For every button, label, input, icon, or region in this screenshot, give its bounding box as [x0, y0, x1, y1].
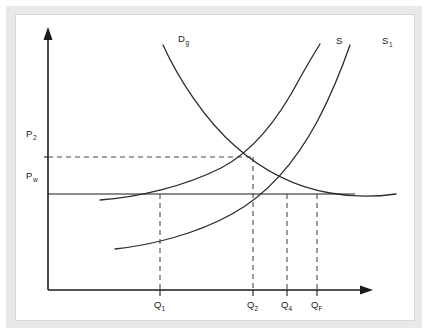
- supply-curve-s1: [115, 45, 350, 249]
- supply1-curve-label-base: S: [382, 35, 388, 46]
- q1-label-base: Q: [154, 299, 161, 310]
- price-axis-labels: P 2 P w: [26, 128, 38, 183]
- figure-root: P 2 P w Q 1 Q 2 Q 4 Q F D g S S 1: [0, 0, 428, 335]
- p2-label-sub: 2: [33, 134, 37, 141]
- q2-label-base: Q: [247, 299, 254, 310]
- axes-group: [44, 27, 374, 295]
- supply-curve-label-base: S: [336, 35, 342, 46]
- quantity-axis-arrowhead: [360, 286, 373, 295]
- qf-label-sub: F: [319, 305, 323, 312]
- q4-label-sub: 4: [289, 305, 293, 312]
- quantity-axis-labels: Q 1 Q 2 Q 4 Q F: [154, 299, 323, 312]
- demand-curve-label-sub: g: [186, 39, 190, 47]
- q2-label-sub: 2: [255, 305, 259, 312]
- q4-label-base: Q: [281, 299, 288, 310]
- x-axis-ticks-group: [160, 290, 317, 296]
- q1-label-sub: 1: [162, 305, 166, 312]
- pw-label-sub: w: [32, 176, 38, 183]
- supply1-curve-label-sub: 1: [389, 41, 393, 48]
- supply-curve-s: [100, 44, 320, 200]
- demand-curve-dg: [163, 45, 396, 196]
- demand-curve-label-base: D: [178, 33, 185, 44]
- qf-label-base: Q: [311, 299, 318, 310]
- quantity-droplines-group: [160, 157, 317, 290]
- pw-label-base: P: [26, 170, 32, 181]
- p2-label-base: P: [26, 128, 32, 139]
- supply-demand-plot: P 2 P w Q 1 Q 2 Q 4 Q F D g S S 1: [0, 0, 428, 335]
- curves-group: [100, 44, 396, 249]
- curve-labels: D g S S 1: [178, 33, 393, 48]
- price-axis-arrowhead: [44, 27, 53, 40]
